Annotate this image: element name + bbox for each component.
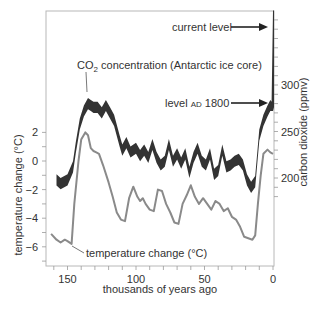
co2-leader-line — [86, 72, 87, 92]
right-y-axis-ticks: 300250200 — [274, 20, 299, 197]
left-y-tick-label: −2 — [25, 184, 38, 196]
temperature-annotation: temperature change (°C) — [86, 247, 207, 259]
left-y-tick-label: −4 — [25, 212, 38, 224]
left-y-tick-label: −6 — [25, 241, 38, 253]
left-y-axis-title: temperature change (°C) — [12, 134, 24, 255]
left-y-tick-label: 0 — [32, 155, 38, 167]
current-level-annotation: current level — [172, 21, 232, 33]
x-tick-label: 150 — [58, 273, 76, 285]
arrowhead-icon — [259, 99, 268, 107]
temperature-leader-line — [72, 246, 84, 253]
temperature-change-series — [51, 132, 273, 244]
left-y-tick-label: 2 — [32, 126, 38, 138]
x-axis-title: thousands of years ago — [103, 283, 217, 295]
left-y-axis-ticks: 20−2−4−6 — [25, 126, 46, 261]
chart: 150100500 20−2−4−6 300250200 CO2 concent… — [0, 0, 320, 309]
right-y-axis-title: carbon dioxide (ppmv) — [297, 78, 309, 187]
x-tick-label: 0 — [270, 273, 276, 285]
level-1800-annotation: level AD 1800 — [165, 97, 229, 109]
co2-annotation: CO2 concentration (Antarctic ice core) — [77, 59, 262, 74]
arrowhead-icon — [259, 23, 268, 31]
